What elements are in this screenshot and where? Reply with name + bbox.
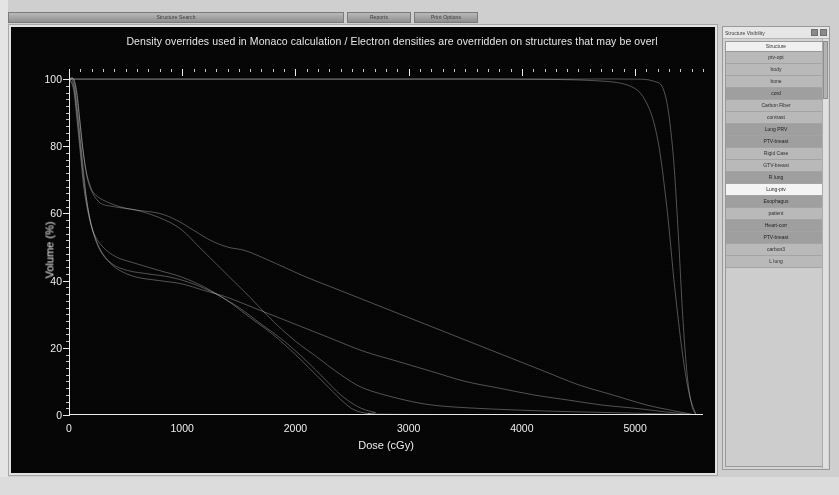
toolbar-button-structure-search[interactable]: Structure Search — [8, 12, 344, 23]
structure-visibility-panel: Structure Visibility Structure ptv-optbo… — [722, 26, 830, 470]
structure-row[interactable]: Esophagus — [726, 196, 826, 208]
dvh-plot-area[interactable]: Density overrides used in Monaco calcula… — [11, 27, 715, 473]
x-axis-label: Dose (cGy) — [11, 439, 715, 451]
axes-inner: 020406080100 010002000300040005000 — [69, 69, 703, 415]
structure-row[interactable]: body — [726, 64, 826, 76]
dvh-curves — [69, 69, 703, 415]
y-tick-major — [63, 415, 70, 416]
structure-row[interactable]: Lung PRV — [726, 124, 826, 136]
panel-body: Structure ptv-optbodybonecordCarbon Fibe… — [723, 39, 829, 469]
dvh-curve — [69, 79, 696, 415]
plot-axes: 020406080100 010002000300040005000 — [69, 69, 703, 415]
x-tick-label: 2000 — [284, 422, 307, 434]
dvh-curve-svg — [69, 69, 703, 415]
dvh-curve — [69, 79, 696, 415]
dvh-curve — [69, 79, 696, 415]
dvh-curve — [69, 79, 696, 415]
structure-row[interactable]: Lung-ptv — [726, 184, 826, 196]
x-tick-label: 4000 — [510, 422, 533, 434]
panel-titlebar[interactable]: Structure Visibility — [723, 27, 829, 39]
structure-row[interactable]: contrast — [726, 112, 826, 124]
y-tick-label: 60 — [50, 207, 62, 219]
structure-column-header: Structure — [726, 42, 826, 52]
x-tick-label: 5000 — [623, 422, 646, 434]
structure-row[interactable]: patient — [726, 208, 826, 220]
structure-row[interactable]: cord — [726, 88, 826, 100]
panel-scrollbar[interactable] — [822, 39, 828, 468]
structure-row[interactable]: PTV-breast — [726, 232, 826, 244]
structure-row[interactable]: PTV-breast — [726, 136, 826, 148]
window-left-edge — [0, 0, 8, 495]
structure-row[interactable]: L lung — [726, 256, 826, 268]
y-tick-label: 0 — [56, 409, 62, 421]
y-tick-label: 40 — [50, 275, 62, 287]
x-tick-minor — [703, 69, 704, 72]
window-bottom-edge — [0, 477, 839, 495]
structure-row[interactable]: GTV-breast — [726, 160, 826, 172]
toolbar-button-print-options[interactable]: Print Options — [414, 12, 478, 23]
dvh-curve — [69, 78, 696, 415]
structure-row[interactable]: bone — [726, 76, 826, 88]
y-tick-label: 100 — [44, 73, 62, 85]
close-icon[interactable] — [820, 29, 827, 36]
structure-row[interactable]: Rigid Case — [726, 148, 826, 160]
structure-row-list[interactable]: ptv-optbodybonecordCarbon FibercontrastL… — [726, 52, 826, 466]
structure-row[interactable]: R lung — [726, 172, 826, 184]
x-tick-label: 1000 — [171, 422, 194, 434]
dvh-curve — [69, 78, 696, 415]
scrollbar-thumb[interactable] — [823, 41, 828, 99]
minimize-icon[interactable] — [811, 29, 818, 36]
structure-row[interactable]: Heart-corr — [726, 220, 826, 232]
dvh-chart-window: Density overrides used in Monaco calcula… — [8, 24, 718, 476]
panel-title: Structure Visibility — [725, 30, 809, 36]
application-window: Structure Search Reports Print Options D… — [0, 0, 839, 495]
structure-table: Structure ptv-optbodybonecordCarbon Fibe… — [725, 41, 827, 467]
structure-row[interactable]: carbon3 — [726, 244, 826, 256]
x-tick-label: 0 — [66, 422, 72, 434]
plot-title: Density overrides used in Monaco calcula… — [11, 35, 715, 47]
x-tick-label: 3000 — [397, 422, 420, 434]
toolbar-button-reports[interactable]: Reports — [347, 12, 411, 23]
y-tick-label: 20 — [50, 342, 62, 354]
y-axis-label: Volume (%) — [43, 222, 55, 279]
y-tick-label: 80 — [50, 140, 62, 152]
top-toolbar: Structure Search Reports Print Options — [8, 12, 478, 23]
structure-row[interactable]: ptv-opt — [726, 52, 826, 64]
structure-row[interactable]: Carbon Fiber — [726, 100, 826, 112]
dvh-curve — [69, 79, 696, 415]
